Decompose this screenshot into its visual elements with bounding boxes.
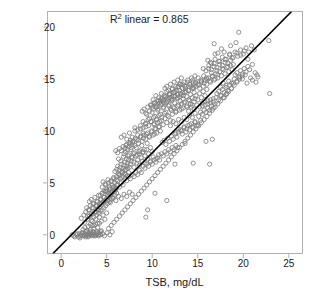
data-point <box>250 62 254 66</box>
regression-line <box>53 12 292 254</box>
data-point <box>219 47 223 51</box>
data-point <box>205 87 209 91</box>
y-tick-label: 15 <box>44 74 55 85</box>
data-point <box>231 62 235 66</box>
data-point <box>177 103 181 107</box>
data-point <box>187 109 191 113</box>
data-point <box>110 230 114 234</box>
x-tick-label: 10 <box>147 258 158 269</box>
r-squared-annotation: R2 linear = 0.865 <box>110 13 189 25</box>
data-point <box>211 97 215 101</box>
data-point <box>231 55 235 59</box>
data-point <box>158 129 162 133</box>
data-point <box>267 38 271 42</box>
x-tick-label: 0 <box>58 258 64 269</box>
y-tick-label: 5 <box>49 177 55 188</box>
data-point <box>249 44 253 48</box>
data-point <box>237 30 241 34</box>
x-tick-label: 25 <box>283 258 294 269</box>
data-point <box>204 139 208 143</box>
data-point <box>103 217 107 221</box>
data-point <box>191 161 195 165</box>
data-point <box>168 124 172 128</box>
data-point <box>140 143 144 147</box>
y-tick-label: 0 <box>49 229 55 240</box>
data-point <box>228 44 232 48</box>
r-squared-prefix: R <box>110 13 118 25</box>
data-point <box>220 63 224 67</box>
data-point <box>179 76 183 80</box>
y-tick-label: 10 <box>44 125 55 136</box>
x-tick-label: 5 <box>104 258 110 269</box>
data-point <box>212 42 216 46</box>
data-point <box>245 81 249 85</box>
x-axis-label: TSB, mg/dL <box>47 276 302 288</box>
data-point <box>145 141 149 145</box>
data-point <box>210 137 214 141</box>
data-point <box>105 211 109 215</box>
data-point <box>234 41 238 45</box>
data-point <box>173 162 177 166</box>
data-point <box>127 131 131 135</box>
plot-canvas <box>0 0 314 296</box>
data-point <box>146 208 150 212</box>
y-tick-label: 20 <box>44 22 55 33</box>
scatter-plot-figure: TcBs, mg/dL TSB, mg/dL R2 linear = 0.865… <box>0 0 314 296</box>
data-point <box>208 162 212 166</box>
data-point <box>182 101 186 105</box>
data-point <box>213 52 217 56</box>
data-point <box>165 198 169 202</box>
data-point <box>215 65 219 69</box>
data-point <box>268 91 272 95</box>
x-tick-label: 15 <box>192 258 203 269</box>
data-point <box>193 74 197 78</box>
data-point <box>138 127 142 131</box>
x-tick-label: 20 <box>238 258 249 269</box>
data-point <box>216 51 220 55</box>
data-point <box>168 118 172 122</box>
data-point <box>144 215 148 219</box>
data-point <box>209 68 213 72</box>
r-squared-rest: linear = 0.865 <box>122 13 189 25</box>
data-point <box>133 129 137 133</box>
data-point <box>148 145 152 149</box>
data-point <box>164 142 168 146</box>
data-point <box>238 53 242 57</box>
data-point <box>153 191 157 195</box>
